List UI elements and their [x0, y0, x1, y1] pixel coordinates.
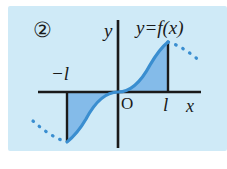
x-tick-label-right: l	[163, 95, 168, 114]
function-label: y=f(x)	[136, 18, 184, 37]
figure-page: ② y y=f(x) −l O l x	[0, 0, 227, 169]
item-number-label: ②	[33, 20, 52, 41]
y-axis-label: y	[104, 21, 112, 40]
origin-label: O	[121, 95, 133, 112]
x-axis-label: x	[186, 97, 194, 115]
curve-extension-left-dotted	[33, 121, 67, 142]
x-tick-label-left: −l	[51, 64, 69, 83]
curve-extension-right-dotted	[168, 42, 202, 63]
